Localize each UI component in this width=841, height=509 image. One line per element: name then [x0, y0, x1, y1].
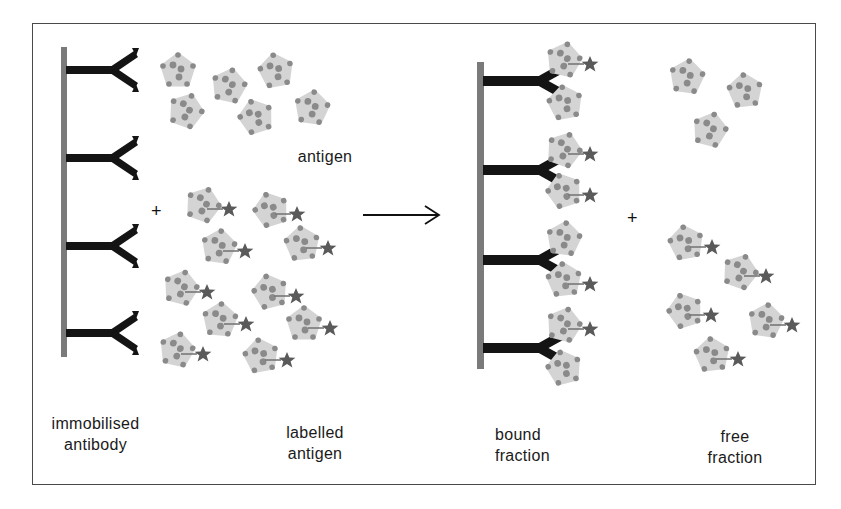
labelled-antigen-label: labelled antigen [270, 422, 360, 464]
free-labelled-antigen-icon [692, 334, 731, 372]
labelled-antigen-icon [160, 265, 203, 308]
labelled-label-line1: labelled [270, 422, 360, 443]
antibody-icon [66, 311, 139, 355]
antigen-icon [255, 49, 296, 89]
reaction-arrow-icon [363, 206, 439, 224]
labelled-antigen-icon [201, 300, 239, 338]
antibody-icon [66, 48, 139, 92]
labelled-antigen-icon [286, 305, 322, 340]
support-bar-left [61, 47, 67, 357]
free-label-line2: fraction [690, 447, 780, 468]
labelled-antigen-icon [248, 187, 293, 231]
free-labelled-antigen-icon [746, 300, 786, 339]
antigen-icon [160, 52, 196, 87]
antigen-group [160, 49, 332, 137]
labelled-antigen-icon [248, 269, 291, 311]
free-label-line1: free [690, 426, 780, 447]
free-antigen-icon [667, 56, 707, 95]
antigen-label-text: antigen [298, 148, 353, 165]
antigen-icon [208, 64, 250, 105]
labelled-antigen-icon [181, 181, 226, 226]
labelled-antigen-icon [199, 226, 239, 265]
antibody-icon [66, 224, 139, 268]
immobilised-label-line2: antibody [38, 434, 153, 455]
free-labelled-antigen-icon [665, 221, 706, 261]
plus-sign-right: + [627, 208, 638, 229]
plus-sign-left: + [151, 201, 162, 222]
antigen-icon [164, 87, 209, 132]
immobilised-label-line1: immobilised [38, 413, 153, 434]
antigen-icon [292, 87, 332, 126]
free-antigen-icon [689, 107, 732, 150]
free-antigen-group [667, 56, 764, 150]
antigen-icon [233, 94, 278, 138]
support-bar-right [477, 62, 484, 369]
labelled-antigen-group [156, 181, 338, 374]
bound-label-line2: fraction [495, 445, 575, 466]
antibody-icon [66, 136, 139, 180]
free-labelled-antigen-icon [718, 248, 763, 293]
bound-label-line1: bound [495, 424, 575, 445]
bound-fraction-label: bound fraction [495, 424, 575, 466]
free-fraction-label: free fraction [690, 426, 780, 468]
bound-antibody-group [477, 38, 598, 388]
immobilised-antibody-label: immobilised antibody [38, 413, 153, 455]
immobilised-antibody-group [61, 47, 139, 357]
labelled-antigen-icon [156, 328, 198, 369]
free-labelled-antigen-icon [662, 288, 707, 332]
labelled-antigen-icon [282, 223, 321, 261]
labelled-antigen-icon [240, 334, 281, 374]
free-labelled-antigen-group [662, 221, 800, 372]
labelled-label-line2: antigen [270, 443, 360, 464]
antigen-label: antigen [280, 146, 370, 167]
free-antigen-icon [725, 70, 764, 108]
